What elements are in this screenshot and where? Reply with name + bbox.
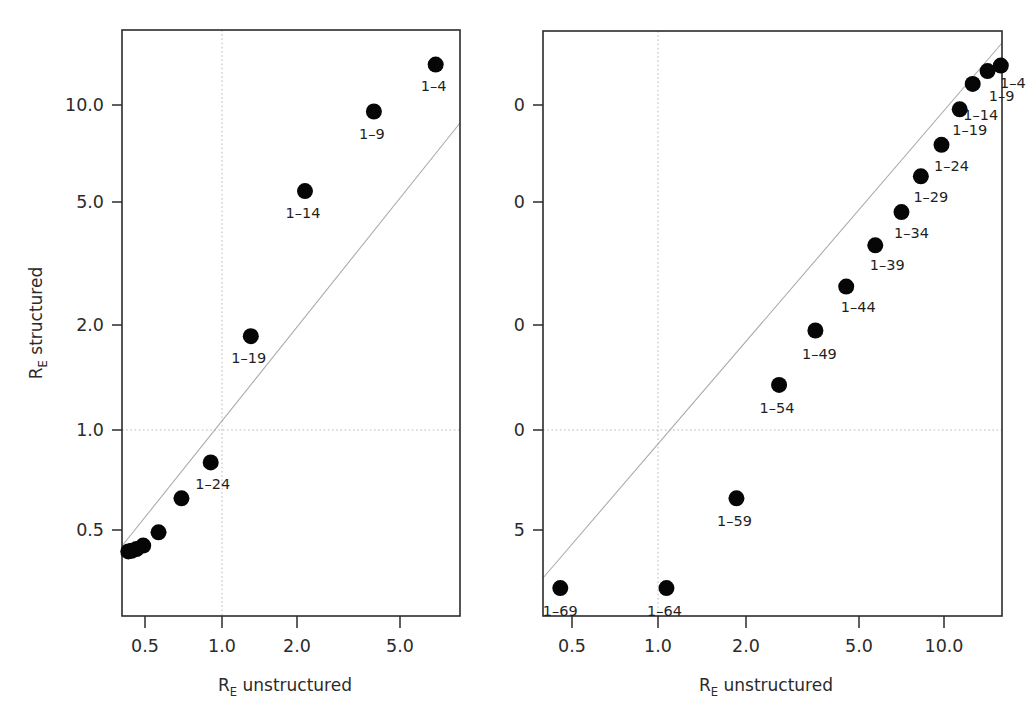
ytick-label-10: 10.0 [65, 95, 104, 115]
xtick-label-05: 0.5 [131, 636, 159, 656]
xtick-label-05: 0.5 [558, 636, 586, 656]
data-point [913, 168, 929, 184]
ytick-label-05: 0.5 [76, 520, 104, 540]
data-point [203, 454, 219, 470]
xtick-label-5: 5.0 [845, 636, 873, 656]
identity-reference-line [122, 123, 460, 546]
data-point [297, 183, 313, 199]
ytick-label-2: 2.0 [514, 315, 525, 335]
data-point [151, 524, 167, 540]
data-point-label: 1–24 [195, 476, 230, 492]
data-point [980, 63, 996, 79]
data-point [807, 323, 823, 339]
figure-two-panel-scatter: 10.0 5.0 2.0 1.0 0.5 0.5 1.0 2.0 5.0 1–4… [0, 0, 1028, 728]
data-point-label: 1–14 [963, 107, 998, 123]
data-point [658, 580, 674, 596]
data-point [173, 490, 189, 506]
data-point [867, 237, 883, 253]
data-point-label: 1–64 [647, 603, 682, 619]
data-point [428, 57, 444, 73]
panel-left-grid [122, 30, 460, 616]
data-point-label: 1–14 [286, 205, 321, 221]
plot-frame [122, 30, 460, 616]
data-point-label: 1–69 [543, 603, 578, 619]
data-point-label: 1–39 [870, 257, 905, 273]
panel-right-data: 1–41–91–141–191–241–291–341–391–441–491–… [543, 58, 1026, 619]
data-point-label: 1–4 [421, 78, 447, 94]
panel-right-xticks: 0.5 1.0 2.0 5.0 10.0 [558, 616, 963, 656]
ytick-label-10: 10.0 [514, 95, 525, 115]
panel-right-svg: 10.0 5.0 2.0 1.0 0.5 0.5 1.0 2.0 5.0 10.… [514, 0, 1028, 728]
panel-right-scatter: 10.0 5.0 2.0 1.0 0.5 0.5 1.0 2.0 5.0 10.… [514, 0, 1028, 728]
data-point-label: 1–24 [934, 158, 969, 174]
ytick-label-5: 5.0 [76, 192, 104, 212]
panel-left-xticks: 0.5 1.0 2.0 5.0 [131, 616, 414, 656]
ytick-label-05: 0.5 [514, 520, 525, 540]
ytick-label-1: 1.0 [76, 420, 104, 440]
data-point-label: 1–59 [717, 513, 752, 529]
x-axis-title: RE unstructured [699, 675, 833, 699]
ytick-label-2: 2.0 [76, 315, 104, 335]
data-point-label: 1–54 [760, 400, 795, 416]
data-point-label: 1–29 [913, 189, 948, 205]
xtick-label-2: 2.0 [283, 636, 311, 656]
panel-left-svg: 10.0 5.0 2.0 1.0 0.5 0.5 1.0 2.0 5.0 1–4… [0, 0, 514, 728]
data-point [965, 76, 981, 92]
xtick-label-1: 1.0 [208, 636, 236, 656]
data-point-label: 1–19 [952, 122, 987, 138]
ytick-label-5: 5.0 [514, 192, 525, 212]
data-point-label: 1–34 [894, 225, 929, 241]
data-point [952, 101, 968, 117]
x-axis-title: RE unstructured [218, 675, 352, 699]
plot-frame [543, 31, 1002, 616]
panel-right-yticks: 10.0 5.0 2.0 1.0 0.5 [514, 95, 543, 540]
panel-left-data: 1–41–91–141–191–24 [120, 57, 446, 560]
data-point [838, 279, 854, 295]
data-point [366, 104, 382, 120]
data-point [552, 580, 568, 596]
data-point-label: 1–44 [841, 299, 876, 315]
data-point [243, 328, 259, 344]
xtick-label-2: 2.0 [732, 636, 760, 656]
y-axis-title: RE structured [26, 267, 50, 379]
xtick-label-5: 5.0 [386, 636, 414, 656]
data-point [893, 204, 909, 220]
data-point [120, 543, 136, 559]
data-point [933, 137, 949, 153]
identity-reference-line [543, 43, 1002, 578]
data-point [771, 377, 787, 393]
panel-left-scatter: 10.0 5.0 2.0 1.0 0.5 0.5 1.0 2.0 5.0 1–4… [0, 0, 514, 728]
data-point-label: 1–19 [231, 350, 266, 366]
data-point-label: 1–9 [359, 126, 385, 142]
xtick-label-1: 1.0 [644, 636, 672, 656]
xtick-label-10: 10.0 [925, 636, 964, 656]
panel-left-yticks: 10.0 5.0 2.0 1.0 0.5 [65, 95, 122, 540]
data-point-label: 1–49 [802, 346, 837, 362]
data-point [728, 490, 744, 506]
panel-right-grid [543, 31, 1002, 616]
data-point-label: 1–9 [989, 88, 1015, 104]
ytick-label-1: 1.0 [514, 420, 525, 440]
